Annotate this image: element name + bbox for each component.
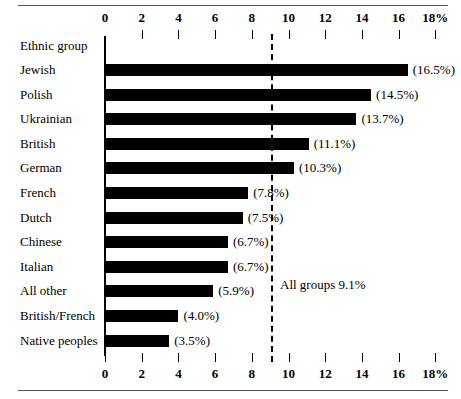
tick-mark-top — [142, 30, 143, 39]
category-label: Ukrainian — [20, 112, 100, 126]
category-label: Chinese — [20, 235, 100, 249]
tick-label-bottom: 18% — [415, 366, 455, 382]
bar — [105, 64, 408, 76]
tick-label-top: 10 — [269, 10, 309, 26]
tick-label-bottom: 8 — [232, 366, 272, 382]
tick-label-top: 16 — [379, 10, 419, 26]
bar — [105, 285, 213, 297]
tick-mark-bottom — [105, 353, 106, 362]
tick-mark-bottom — [362, 353, 363, 362]
bar-value-label: (16.5%) — [413, 64, 455, 76]
tick-mark-bottom — [252, 353, 253, 362]
bar — [105, 236, 228, 248]
bar — [105, 212, 243, 224]
bar-value-label: (7.5%) — [248, 212, 284, 224]
tick-mark-top — [289, 30, 290, 39]
bar — [105, 113, 356, 125]
tick-mark-bottom — [435, 353, 436, 362]
tick-mark-bottom — [142, 353, 143, 362]
tick-mark-top — [252, 30, 253, 39]
bar-value-label: (14.5%) — [376, 89, 418, 101]
tick-mark-top — [215, 30, 216, 39]
bar-value-label: (6.7%) — [233, 261, 269, 273]
tick-label-bottom: 2 — [122, 366, 162, 382]
tick-mark-top — [325, 30, 326, 39]
bar — [105, 310, 178, 322]
bar-chart-figure: 024681012141618% 024681012141618% Ethnic… — [0, 0, 461, 399]
tick-mark-top — [399, 30, 400, 39]
category-label: All other — [20, 284, 100, 298]
bar-value-label: (6.7%) — [233, 236, 269, 248]
tick-label-top: 2 — [122, 10, 162, 26]
bar-value-label: (3.5%) — [174, 335, 210, 347]
bottom-horizontal-rule — [18, 390, 448, 391]
tick-label-top: 12 — [305, 10, 345, 26]
tick-label-top: 6 — [195, 10, 235, 26]
tick-label-bottom: 4 — [158, 366, 198, 382]
bar-value-label: (13.7%) — [361, 113, 403, 125]
tick-mark-bottom — [215, 353, 216, 362]
bar-value-label: (4.0%) — [183, 310, 219, 322]
bar — [105, 138, 309, 150]
bar — [105, 187, 248, 199]
bar — [105, 335, 169, 347]
bar-value-label: (11.1%) — [314, 138, 356, 150]
tick-label-bottom: 10 — [269, 366, 309, 382]
bar-value-label: (10.3%) — [299, 162, 341, 174]
category-label: British/French — [20, 309, 100, 323]
tick-label-bottom: 16 — [379, 366, 419, 382]
tick-mark-top — [435, 30, 436, 39]
tick-mark-bottom — [178, 353, 179, 362]
tick-label-bottom: 14 — [342, 366, 382, 382]
tick-label-top: 14 — [342, 10, 382, 26]
category-label: French — [20, 186, 100, 200]
category-label: Jewish — [20, 63, 100, 77]
tick-label-top: 0 — [85, 10, 125, 26]
reference-line-annotation: All groups 9.1% — [280, 277, 366, 293]
tick-label-top: 8 — [232, 10, 272, 26]
tick-mark-bottom — [399, 353, 400, 362]
tick-mark-bottom — [289, 353, 290, 362]
tick-mark-top — [178, 30, 179, 39]
category-axis-title: Ethnic group — [20, 39, 88, 53]
tick-label-top: 18% — [415, 10, 455, 26]
tick-label-bottom: 12 — [305, 366, 345, 382]
category-label: Native peoples — [20, 334, 100, 348]
bar — [105, 89, 371, 101]
category-label: Italian — [20, 260, 100, 274]
tick-mark-bottom — [325, 353, 326, 362]
category-label: British — [20, 137, 100, 151]
category-label: Polish — [20, 88, 100, 102]
top-horizontal-rule — [18, 5, 448, 6]
bar — [105, 261, 228, 273]
tick-label-bottom: 0 — [85, 366, 125, 382]
tick-label-bottom: 6 — [195, 366, 235, 382]
bar — [105, 162, 294, 174]
category-label: Dutch — [20, 211, 100, 225]
tick-mark-top — [362, 30, 363, 39]
category-label: German — [20, 161, 100, 175]
tick-label-top: 4 — [158, 10, 198, 26]
bar-value-label: (5.9%) — [218, 285, 254, 297]
bar-value-label: (7.8%) — [253, 187, 289, 199]
